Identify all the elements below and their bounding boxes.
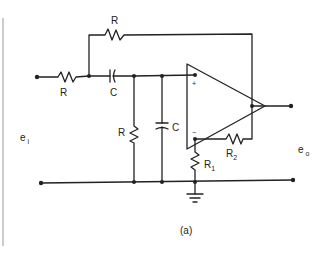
output-voltage-label: eo <box>298 144 310 157</box>
resistor-r2 <box>195 106 252 144</box>
series-capacitor-label: C <box>110 87 117 98</box>
plus-input-node <box>193 73 197 77</box>
input-resistor <box>37 72 89 82</box>
ground-icon <box>187 182 203 202</box>
wire-to-plus <box>134 75 195 76</box>
minus-input-sign: − <box>192 129 196 136</box>
r1-label: R1 <box>204 159 215 172</box>
plus-input-sign: + <box>192 80 196 87</box>
shunt-resistor <box>130 76 138 182</box>
output-terminal <box>289 104 293 108</box>
common-line <box>41 180 293 183</box>
circuit-diagram: R R C R C + − R2 R <box>0 0 324 253</box>
input-resistor-label: R <box>60 87 67 98</box>
shunt-capacitor-label: C <box>172 122 179 133</box>
junction-node <box>132 180 136 184</box>
shunt-resistor-label: R <box>118 127 125 138</box>
output-ground-terminal <box>291 178 295 182</box>
junction-node <box>160 180 164 184</box>
input-voltage-label: ei <box>20 132 30 145</box>
series-capacitor <box>89 70 134 82</box>
feedback-resistor-label: R <box>111 15 118 26</box>
r2-label: R2 <box>226 148 237 161</box>
shunt-capacitor <box>156 76 168 182</box>
figure-caption: (a) <box>180 225 192 236</box>
